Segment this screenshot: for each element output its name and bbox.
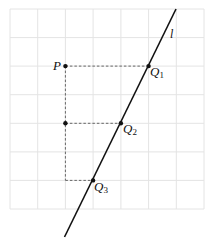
label-l: l [170, 27, 174, 41]
label-Q3: Q3 [94, 179, 108, 195]
label-P: P [52, 58, 61, 73]
grid-diagram: P Q1 Q2 Q3 l [0, 0, 210, 252]
grid-lines [10, 9, 204, 209]
point-p [63, 64, 67, 68]
point-m [63, 121, 67, 125]
